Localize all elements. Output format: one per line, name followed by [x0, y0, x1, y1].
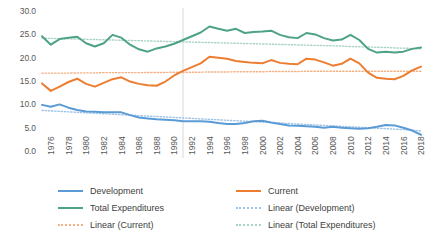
legend-swatch-icon [236, 186, 261, 196]
x-tick-label: 2008 [328, 136, 338, 155]
x-tick-label: 2016 [399, 136, 409, 155]
y-tick-label: 30.0 [0, 6, 36, 16]
y-tick-label: 10.0 [0, 99, 36, 109]
legend-label: Total Expenditures [90, 203, 164, 213]
chart-legend: DevelopmentCurrentTotal ExpendituresLine… [44, 184, 420, 242]
y-tick-label: 25.0 [0, 29, 36, 39]
x-tick-label: 2002 [275, 136, 285, 155]
x-tick-label: 1996 [222, 136, 232, 155]
x-tick-label: 1978 [64, 136, 74, 155]
legend-swatch-icon [236, 220, 261, 230]
legend-item[interactable]: Total Expenditures [58, 201, 164, 215]
x-tick-label: 1976 [46, 136, 56, 155]
x-tick-label: 1986 [134, 136, 144, 155]
x-tick-label: 1992 [187, 136, 197, 155]
legend-item[interactable]: Linear (Current) [58, 218, 154, 232]
x-tick-label: 1990 [169, 136, 179, 155]
legend-label: Linear (Total Expenditures) [268, 220, 376, 230]
y-tick-label: 20.0 [0, 53, 36, 63]
x-tick-label: 2000 [258, 136, 268, 155]
legend-item[interactable]: Current [236, 184, 298, 198]
legend-swatch-icon [58, 203, 83, 213]
y-tick-label: 5.0 [0, 123, 36, 133]
legend-label: Linear (Development) [268, 203, 355, 213]
line-chart: 30.025.020.015.010.05.00.0 1976197819801… [0, 0, 427, 244]
x-tick-label: 2012 [363, 136, 373, 155]
legend-swatch-icon [58, 186, 83, 196]
y-tick-label: 15.0 [0, 76, 36, 86]
x-tick-label: 1998 [240, 136, 250, 155]
x-tick-label: 2006 [310, 136, 320, 155]
legend-label: Linear (Current) [90, 220, 154, 230]
x-tick-label: 1988 [152, 136, 162, 155]
x-tick-label: 1982 [99, 136, 109, 155]
legend-item[interactable]: Development [58, 184, 143, 198]
legend-item[interactable]: Linear (Development) [236, 201, 355, 215]
legend-label: Development [90, 186, 143, 196]
legend-label: Current [268, 186, 298, 196]
x-tick-label: 1980 [81, 136, 91, 155]
x-tick-label: 2018 [416, 136, 426, 155]
y-tick-label: 0.0 [0, 146, 36, 156]
x-tick-label: 2004 [293, 136, 303, 155]
legend-item[interactable]: Linear (Total Expenditures) [236, 218, 376, 232]
x-tick-label: 1994 [205, 136, 215, 155]
series-line-current [42, 57, 421, 91]
legend-swatch-icon [58, 220, 83, 230]
series-line-development [42, 104, 421, 134]
x-tick-label: 2014 [381, 136, 391, 155]
legend-swatch-icon [236, 203, 261, 213]
x-tick-label: 1984 [117, 136, 127, 155]
series-line-linear_current [42, 71, 421, 73]
x-tick-label: 2010 [346, 136, 356, 155]
series-line-total_expenditures [42, 26, 421, 52]
